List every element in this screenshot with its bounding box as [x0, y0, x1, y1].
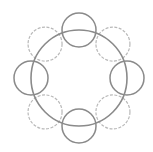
satellite-circles: [14, 13, 144, 143]
central-circle: [31, 30, 127, 126]
circle-ring-diagram: [0, 0, 153, 152]
